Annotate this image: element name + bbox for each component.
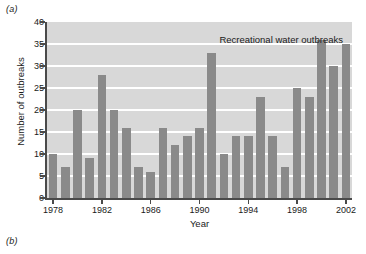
bar: [159, 128, 168, 198]
bar-chart-figure: Number of outbreaks 0510152025303540 Rec…: [0, 18, 366, 234]
bar: [244, 136, 253, 198]
bar: [256, 97, 265, 198]
bar: [195, 128, 204, 198]
bar: [293, 88, 302, 198]
bar: [73, 110, 82, 198]
x-axis-tick-labels: 1978198219861990199419982002: [47, 205, 352, 217]
bar: [305, 97, 314, 198]
bar: [146, 172, 155, 198]
bar: [122, 128, 131, 198]
bar: [329, 66, 338, 198]
y-tick-mark: [40, 109, 45, 111]
x-tick-label: 1986: [141, 205, 161, 215]
x-tick-mark: [345, 200, 347, 204]
y-tick-mark: [40, 43, 45, 45]
x-tick-mark: [248, 200, 250, 204]
x-tick-mark: [52, 200, 54, 204]
x-tick-mark: [199, 200, 201, 204]
x-axis-title: Year: [47, 218, 352, 229]
plot-area: Recreational water outbreaks: [47, 22, 352, 198]
y-tick-mark: [40, 175, 45, 177]
x-tick-label: 1994: [238, 205, 258, 215]
bar: [220, 154, 229, 198]
x-tick-label: 2002: [336, 205, 356, 215]
bar: [232, 136, 241, 198]
y-tick-mark: [40, 153, 45, 155]
bar: [134, 167, 143, 198]
x-tick-label: 1978: [43, 205, 63, 215]
bar: [98, 75, 107, 198]
bar: [317, 40, 326, 198]
panel-label-a: (a): [6, 4, 18, 14]
x-tick-label: 1998: [287, 205, 307, 215]
bar: [110, 110, 119, 198]
bar: [207, 53, 216, 198]
bar: [171, 145, 180, 198]
x-tick-label: 1990: [189, 205, 209, 215]
bar: [61, 167, 70, 198]
y-tick-mark: [40, 65, 45, 67]
chart-title: Recreational water outbreaks: [219, 34, 343, 45]
y-tick-mark: [40, 131, 45, 133]
bar: [183, 136, 192, 198]
y-tick-mark: [40, 21, 45, 23]
x-tick-mark: [101, 200, 103, 204]
x-tick-label: 1982: [92, 205, 112, 215]
bar: [85, 158, 94, 198]
y-tick-mark: [40, 197, 45, 199]
panel-label-b: (b): [6, 236, 18, 246]
bar: [268, 136, 277, 198]
bar-series: [47, 22, 352, 198]
x-tick-mark: [296, 200, 298, 204]
bar: [281, 167, 290, 198]
x-tick-mark: [150, 200, 152, 204]
y-tick-mark: [40, 87, 45, 89]
bar: [342, 44, 351, 198]
bar: [49, 154, 58, 198]
